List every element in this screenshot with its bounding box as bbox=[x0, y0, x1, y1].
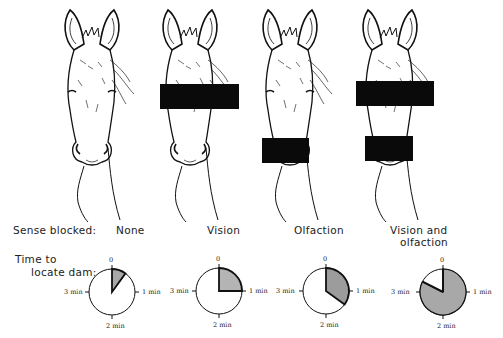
tick-1min-vision: 1 min bbox=[249, 287, 268, 295]
condition-label-olfaction: Olfaction bbox=[294, 224, 344, 236]
time-to-locate-label-line2: locate dam: bbox=[31, 266, 97, 278]
tick-2min-vision-olfaction: 2 min bbox=[437, 322, 456, 330]
tick-2min-vision: 2 min bbox=[213, 321, 232, 329]
tick-2min-none: 2 min bbox=[106, 322, 125, 330]
condition-label-vision: Vision bbox=[207, 224, 240, 236]
tick-0-vision-olfaction: 0 bbox=[440, 256, 444, 264]
clock-pie-vision-olfaction bbox=[416, 265, 470, 319]
nose-block-vision-olfaction bbox=[365, 136, 413, 161]
horse-head-none bbox=[65, 10, 134, 222]
tick-1min-olfaction: 1 min bbox=[356, 287, 375, 295]
sense-blocked-label: Sense blocked: bbox=[13, 224, 96, 236]
horse-head-olfaction bbox=[263, 10, 332, 222]
tick-0-none: 0 bbox=[109, 256, 113, 264]
tick-3min-vision: 3 min bbox=[170, 287, 189, 295]
nose-block-olfaction bbox=[262, 138, 309, 163]
tick-0-vision: 0 bbox=[216, 255, 220, 263]
clock-pie-vision bbox=[192, 264, 246, 318]
tick-3min-none: 3 min bbox=[64, 288, 83, 296]
time-to-locate-label-line1: Time to bbox=[15, 253, 57, 265]
clock-pie-olfaction bbox=[299, 264, 353, 318]
condition-label-olfaction-line2: olfaction bbox=[400, 236, 448, 248]
tick-1min-none: 1 min bbox=[142, 288, 161, 296]
horse-head-vision bbox=[163, 10, 232, 222]
tick-1min-vision-olfaction: 1 min bbox=[473, 288, 492, 296]
tick-2min-olfaction: 2 min bbox=[320, 321, 339, 329]
tick-3min-olfaction: 3 min bbox=[276, 287, 295, 295]
horse-head-vision-olfaction bbox=[363, 10, 432, 222]
eye-block-vision bbox=[160, 84, 239, 109]
eye-block-vision-olfaction bbox=[356, 81, 434, 106]
condition-label-none: None bbox=[116, 224, 145, 236]
tick-3min-vision-olfaction: 3 min bbox=[391, 288, 410, 296]
condition-label-vision-and: Vision and bbox=[390, 224, 447, 236]
tick-0-olfaction: 0 bbox=[323, 255, 327, 263]
